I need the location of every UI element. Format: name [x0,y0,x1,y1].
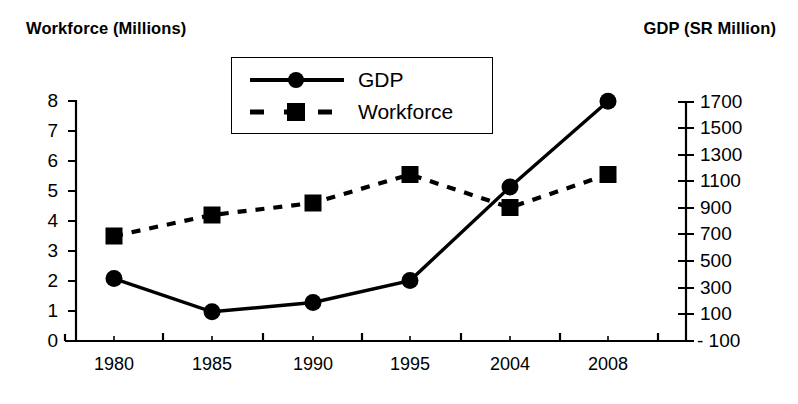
gdp-data-point [502,179,519,196]
left-tick-label: 7 [28,121,58,140]
gdp-data-point [106,270,123,287]
chart-legend: GDP Workforce [231,57,493,134]
right-tick-label: 1100 [700,171,741,190]
x-axis-ticks [65,333,658,341]
left-tick-label: 4 [28,211,58,230]
workforce-data-point [600,166,617,183]
right-tick-label: 500 [700,251,732,270]
gdp-data-point [600,93,617,110]
left-tick-label: 2 [28,271,58,290]
workforce-data-point [402,166,419,183]
x-tick-label: 1990 [278,355,348,373]
x-tick-label: 1985 [177,355,247,373]
right-tick-label: 1300 [700,145,742,164]
gdp-data-point [204,303,221,320]
gdp-legend-swatch [232,65,358,95]
workforce-data-point [204,207,221,224]
legend-label-gdp: GDP [358,68,404,92]
left-tick-label: 1 [28,301,58,320]
left-tick-label: 6 [28,151,58,170]
left-tick-label: 8 [28,91,58,110]
left-tick-label: 3 [28,241,58,260]
gdp-data-point [402,272,419,289]
right-tick-label: 900 [700,198,732,217]
workforce-series-markers [106,166,617,245]
x-tick-label: 1980 [79,355,149,373]
left-axis-ticks [68,101,76,341]
right-tick-label: 100 [700,304,732,323]
x-tick-label: 2008 [573,355,643,373]
legend-item-gdp: GDP [232,64,492,96]
workforce-data-point [502,199,519,216]
right-tick-label: 700 [700,224,732,243]
workforce-data-point [305,195,322,212]
left-tick-label: 0 [28,331,58,350]
workforce-data-point [106,228,123,245]
legend-label-workforce: Workforce [358,100,453,124]
gdp-data-point [305,294,322,311]
right-tick-label: 1700 [700,92,742,111]
workforce-series-line [114,175,608,237]
x-tick-label: 1995 [375,355,445,373]
legend-item-workforce: Workforce [232,96,492,128]
x-tick-label: 2004 [475,355,545,373]
chart-figure: Workforce (Millions) GDP (SR Million) [0,0,798,404]
workforce-legend-swatch [232,97,358,127]
left-tick-label: 5 [28,181,58,200]
right-tick-label: 1500 [700,118,742,137]
right-tick-label: 300 [700,278,732,297]
right-tick-label: - 100 [697,331,740,350]
